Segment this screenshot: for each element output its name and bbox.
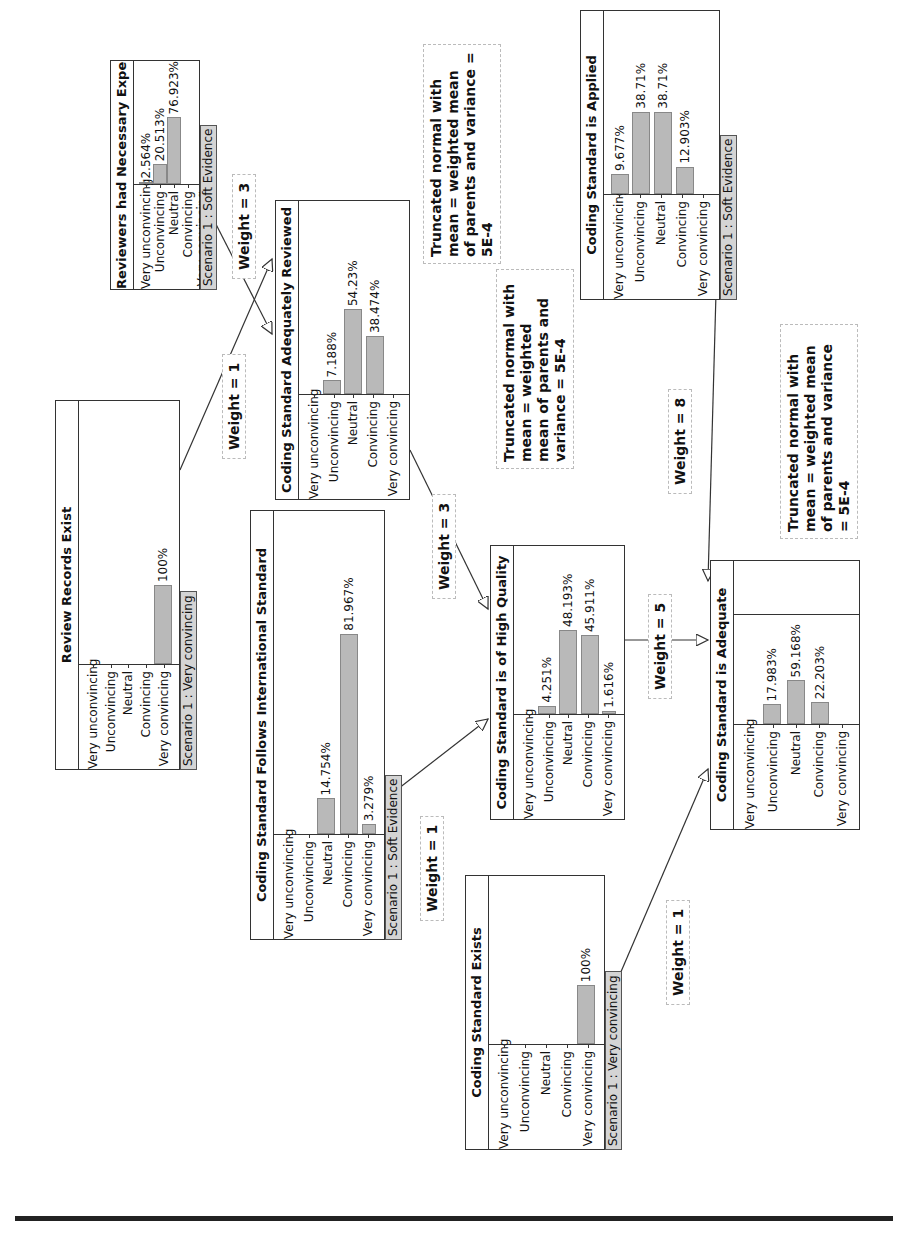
prob-value: 9.677% <box>613 125 627 171</box>
prob-bar <box>811 702 829 724</box>
state-label: Unconvincing <box>153 185 167 289</box>
prob-bar <box>763 704 781 724</box>
prob-bar <box>139 182 153 184</box>
state-label: Convincing <box>560 1045 574 1149</box>
prob-value: 100% <box>579 948 593 982</box>
state-label: Convincing <box>812 725 826 829</box>
state-label: Very unconvincing <box>743 725 757 829</box>
prob-bar <box>559 630 577 714</box>
state-label: Very unconvincing <box>612 195 626 299</box>
probability-bars: 4.251% 48.193% 45.911% 1.616% <box>513 546 624 714</box>
node-title: Review Records Exist <box>56 401 79 769</box>
state-labels: Very unconvincing Unconvincing Neutral C… <box>78 664 179 769</box>
prob-value: 17.983% <box>765 648 779 701</box>
prob-value: 38.474% <box>368 280 382 333</box>
prob-value: 2.564% <box>139 133 153 179</box>
state-label: Convincing <box>366 395 380 499</box>
prob-value: 45.911% <box>583 579 597 632</box>
prob-value: 38.71% <box>634 63 648 109</box>
state-label: Unconvincing <box>104 665 118 769</box>
probability-bars: 100% <box>78 401 179 664</box>
evidence-badge: Scenario 1 : Very convincing <box>605 971 622 1150</box>
prob-value: 54.23% <box>346 260 360 306</box>
node-title: Reviewers had Necessary Experience <box>111 61 134 289</box>
node-title: Coding Standard Exists <box>466 876 489 1149</box>
node-adequately-reviewed[interactable]: Coding Standard Adequately Reviewed Very… <box>275 200 410 500</box>
state-label: Neutral <box>539 1045 553 1149</box>
node-standard-adequate[interactable]: Coding Standard is Adequate Very unconvi… <box>710 560 860 830</box>
state-label: Neutral <box>121 665 135 769</box>
node-reviewers-experience[interactable]: Reviewers had Necessary Experience Very … <box>110 60 200 290</box>
prob-value: 48.193% <box>561 574 575 627</box>
state-labels: Very unconvincing Unconvincing Neutral C… <box>603 194 719 299</box>
evidence-badge: Scenario 1 : Soft Evidence <box>720 135 737 300</box>
probability-bars: 9.677% 38.71% 38.71% 12.903% <box>603 11 719 194</box>
weight-label-quality: Weight = 5 <box>648 594 672 699</box>
node-standard-applied[interactable]: Coding Standard is Applied Very unconvin… <box>580 10 720 300</box>
state-labels: Very unconvincing Unconvincing Neutral C… <box>133 184 199 289</box>
state-label: Very convincing <box>601 715 615 819</box>
state-label: Neutral <box>654 195 668 299</box>
probability-bars: 100% <box>488 876 604 1044</box>
state-label: Neutral <box>167 185 181 289</box>
prob-bar <box>317 798 335 834</box>
prob-value: 38.71% <box>656 63 670 109</box>
prob-bar <box>323 381 341 395</box>
prob-value: 3.279% <box>362 776 376 822</box>
state-labels: Very unconvincing Unconvincing Neutral C… <box>513 714 624 819</box>
state-label: Convincing <box>675 195 689 299</box>
prob-value: 100% <box>156 548 170 582</box>
state-label: Convincing <box>581 715 595 819</box>
prob-bar <box>167 117 181 184</box>
state-labels: Very unconvincing Unconvincing Neutral C… <box>273 834 384 939</box>
prob-bar <box>581 635 599 714</box>
node-title: Coding Standard is of High Quality <box>491 546 514 819</box>
page-rule <box>15 1216 893 1221</box>
bayesian-network-canvas: Reviewers had Necessary Experience Very … <box>0 0 921 1239</box>
evidence-badge: Scenario 1 : Soft Evidence <box>385 775 402 940</box>
node-title: Coding Standard Adequately Reviewed <box>276 201 299 499</box>
prob-bar <box>366 336 384 394</box>
prob-value: 12.903% <box>678 110 692 163</box>
prob-bar <box>154 585 172 664</box>
prob-value: 4.251% <box>540 657 554 703</box>
state-label: Unconvincing <box>327 395 341 499</box>
prob-bar <box>676 167 694 194</box>
cpd-note-quality: Truncated normal with mean = weighted me… <box>496 269 574 469</box>
prob-value: 22.203% <box>813 646 827 699</box>
state-labels: Very unconvincing Unconvincing Neutral C… <box>733 724 859 829</box>
state-label: Very convincing <box>361 835 375 939</box>
prob-bar <box>362 824 376 834</box>
evidence-badge: Scenario 1 : Soft Evidence <box>200 125 217 290</box>
node-standard-exists[interactable]: Coding Standard Exists Very unconvincing… <box>465 875 605 1150</box>
weight-label-exists: Weight = 1 <box>666 900 690 1005</box>
state-label: Neutral <box>321 835 335 939</box>
state-label: Neutral <box>346 395 360 499</box>
state-label: Convincing <box>139 665 153 769</box>
weight-label-records: Weight = 1 <box>222 354 246 459</box>
prob-bar <box>153 164 167 184</box>
node-follows-international-standard[interactable]: Coding Standard Follows International St… <box>250 510 385 940</box>
state-labels: Very unconvincing Unconvincing Neutral C… <box>298 394 409 499</box>
weight-label-applied: Weight = 8 <box>668 389 692 494</box>
cpd-note-adequate: Truncated normal with mean = weighted me… <box>780 324 858 539</box>
state-label: Very convincing <box>157 665 171 769</box>
state-label: Very unconvincing <box>282 835 296 939</box>
prob-value: 76.923% <box>167 61 181 114</box>
prob-bar <box>340 634 358 834</box>
state-label: Unconvincing <box>766 725 780 829</box>
state-label: Very convincing <box>386 395 400 499</box>
state-label: Convincing <box>181 185 195 289</box>
node-high-quality[interactable]: Coding Standard is of High Quality Very … <box>490 545 625 820</box>
state-label: Very unconvincing <box>139 185 153 289</box>
evidence-badge: Scenario 1 : Very convincing <box>180 591 197 770</box>
state-label: Unconvincing <box>542 715 556 819</box>
prob-bar <box>611 174 629 194</box>
weight-label-international: Weight = 1 <box>420 816 444 921</box>
prob-bar <box>344 309 362 394</box>
prob-value: 20.513% <box>153 108 167 161</box>
node-review-records-exist[interactable]: Review Records Exist Very unconvincing U… <box>55 400 180 770</box>
state-label: Very convincing <box>696 195 710 299</box>
state-label: Very unconvincing <box>307 395 321 499</box>
state-label: Neutral <box>789 725 803 829</box>
